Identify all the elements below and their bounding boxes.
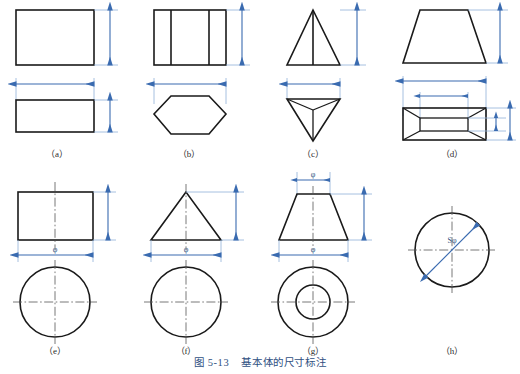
panel-g-top-diameter-dim-label: φ — [311, 170, 316, 179]
figure-basic-solids-dimensioning: .obj{fill:none;stroke:#1a1a1a;stroke-wid… — [0, 0, 520, 374]
panel-b-label: （b） — [178, 149, 201, 159]
panel-b-top-view-hexagon — [154, 96, 226, 134]
panel-g-front-view-trapezoid — [279, 194, 348, 240]
panel-f-cone: φ （f） — [144, 184, 244, 356]
panel-c-label: （c） — [302, 149, 324, 159]
panel-g-truncated-cone: φ φ （g） — [271, 170, 372, 356]
panel-e-cylinder: φ （e） — [13, 182, 116, 356]
panel-e-diameter-dim-label: φ — [53, 245, 58, 254]
panel-a-top-view-rectangle — [16, 100, 94, 132]
panel-d-top-view-outer-rect — [403, 108, 486, 140]
panel-d-label: （d） — [441, 149, 464, 159]
figure-caption-title: 基本体的尺寸标注 — [241, 357, 326, 368]
technical-drawing-canvas: .obj{fill:none;stroke:#1a1a1a;stroke-wid… — [0, 0, 520, 374]
panel-d-diag-br — [468, 131, 486, 140]
panel-a-label: （a） — [46, 149, 68, 159]
panel-f-diameter-dim-label: φ — [184, 245, 189, 254]
panel-e-front-view-rectangle — [18, 192, 93, 240]
figure-caption: 图 5-13基本体的尺寸标注 — [0, 354, 520, 369]
panel-c-triangular-pyramid: （c） — [287, 10, 366, 159]
panel-d-diag-tl — [403, 108, 420, 118]
panel-d-diag-tr — [468, 108, 486, 118]
panel-h-spherical-diameter-label: Sφ — [447, 236, 456, 245]
panel-b-hexagonal-prism: （b） — [154, 10, 250, 159]
panel-g-bottom-diameter-dim-label: φ — [311, 245, 316, 254]
panel-d-truncated-pyramid: （d） — [403, 10, 516, 159]
panel-a-rectangular-prism: （a） — [16, 10, 118, 159]
panel-a-front-view-rectangle — [16, 10, 94, 65]
panel-h-spherical-diameter-dimension — [426, 224, 478, 276]
figure-caption-number: 图 5-13 — [194, 357, 229, 368]
panel-d-top-view-inner-rect — [420, 118, 468, 131]
panel-h-sphere: Sφ （h） — [408, 206, 496, 356]
panel-b-front-view-rectangle — [154, 10, 226, 65]
panel-d-diag-bl — [403, 131, 420, 140]
panel-d-front-view-trapezoid — [403, 10, 486, 63]
